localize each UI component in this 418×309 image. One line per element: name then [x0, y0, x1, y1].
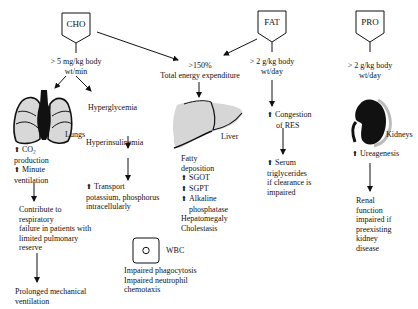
respiratory-failure-text: Contribute to respiratory failure in pat…	[19, 205, 91, 253]
cho-to-energy-arrow	[97, 32, 178, 60]
kidneys-label: Kidneys	[386, 130, 413, 140]
cho-threshold: > 5 mg/kg body wt/min	[36, 57, 116, 76]
hyperglycemia-label: Hyperglycemia	[88, 103, 137, 113]
fat-label: FAT	[258, 17, 286, 27]
wbc-icon	[133, 238, 159, 263]
hyperinsulinemia-label: Hyperinsulinemia	[86, 138, 143, 148]
lungs-effects: CO₂ production Minute ventilation	[14, 145, 49, 185]
pro-threshold: > 2 g/kg body wt/day	[334, 61, 406, 80]
res-congestion-text: Congestion of RES	[267, 110, 311, 130]
lungs-label: Lungs	[65, 130, 85, 140]
cho-to-lungs-arrow	[55, 76, 66, 88]
liver-label: Liver	[221, 132, 238, 142]
cho-to-hyperglycemia-arrow	[76, 76, 91, 91]
fat-to-energy-arrow	[224, 39, 257, 55]
serum-triglycerides-text: Serum triglycerides if clearance is impa…	[267, 158, 311, 197]
kidney-icon	[353, 100, 391, 147]
transport-text: Transport potassium, phosphorus intracel…	[86, 182, 159, 212]
prolonged-ventilation-text: Prolonged mechanical ventilation	[15, 287, 86, 306]
wbc-label: WBC	[166, 246, 184, 256]
pro-label: PRO	[356, 17, 384, 27]
renal-function-text: Renal function impaired if preexisting k…	[356, 196, 392, 253]
liver-effects: Fatty deposition SGOT SGPT Alkaline phos…	[181, 154, 228, 233]
lungs-icon	[14, 90, 72, 143]
wbc-effects: Impaired phagocytosis Impaired neutrophi…	[124, 266, 197, 295]
ureagenesis-text: Ureagenesis	[352, 149, 399, 160]
cho-label: CHO	[62, 19, 90, 29]
energy-expenditure: >150% Total energy expenditure	[150, 61, 250, 80]
